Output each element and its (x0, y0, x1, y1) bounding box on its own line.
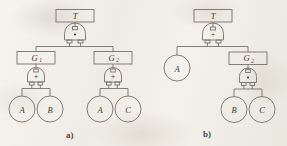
b-top-gate-symbol: + (211, 30, 216, 39)
b-g2-bus (234, 86, 262, 97)
a-leaf-c-label: C (125, 105, 131, 115)
b-leaf-b-label: B (231, 105, 236, 115)
a-top-bus (36, 43, 113, 52)
subfigure-a-caption: a) (66, 130, 74, 140)
a-top-gate-and-dot (74, 33, 76, 35)
b-g2-gate-and-dot (247, 76, 249, 78)
b-top-event-label: T (211, 11, 217, 21)
b-leaf-a: A (164, 55, 190, 81)
fault-tree-b: T + A (164, 10, 275, 123)
b-leaf-c: C (249, 97, 275, 123)
a-g1-label: G (31, 53, 37, 63)
fault-tree-a: T (9, 10, 141, 123)
subfigure-b-caption: b) (203, 129, 211, 139)
a-leaf-a2-label: A (96, 105, 103, 115)
b-top-bus (177, 43, 248, 55)
b-top-event-box: T (194, 10, 232, 23)
a-g1-gate-symbol: + (34, 72, 39, 81)
a-leaf-b: B (37, 96, 63, 122)
a-top-event-label: T (73, 11, 79, 21)
b-leaf-a-label: A (173, 64, 180, 74)
fault-tree-diagrams: .ln { stroke: #75726c; stroke-width: 0.9… (0, 0, 287, 146)
a-g1-or-gate: + (28, 68, 45, 86)
a-g2-box: G 2 (94, 52, 132, 65)
a-g1-bus (22, 85, 50, 96)
a-g2-label: G (108, 53, 114, 63)
a-leaf-a2: A (87, 96, 113, 122)
b-g2-label: G (243, 53, 249, 63)
a-g1-box: G 1 (17, 52, 55, 65)
b-g2-and-gate (240, 68, 257, 86)
a-g1-subscript: 1 (39, 57, 42, 63)
b-g2-subscript: 2 (251, 58, 254, 64)
a-leaf-b-label: B (47, 105, 52, 115)
figure-canvas: .ln { stroke: #75726c; stroke-width: 0.9… (0, 0, 287, 146)
a-leaf-a-label: A (18, 105, 25, 115)
a-leaf-c: C (115, 96, 141, 122)
a-g2-gate-symbol: + (111, 72, 116, 81)
a-top-event-box: T (56, 10, 94, 23)
a-g2-or-gate: + (105, 68, 122, 86)
a-leaf-a: A (9, 96, 35, 122)
a-g2-bus (100, 85, 128, 96)
b-g2-box: G 2 (229, 52, 267, 65)
b-leaf-b: B (221, 97, 247, 123)
b-leaf-c-label: C (259, 105, 265, 115)
a-g2-subscript: 2 (116, 57, 119, 63)
